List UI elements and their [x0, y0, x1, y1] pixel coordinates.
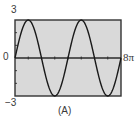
x-max-label: 8π: [123, 52, 134, 62]
y-max-label: 3: [11, 5, 17, 15]
y-zero-label: 0: [3, 52, 9, 62]
figure-caption: (A): [58, 106, 71, 116]
sine-chart: [0, 0, 137, 121]
y-min-label: −3: [5, 98, 16, 108]
